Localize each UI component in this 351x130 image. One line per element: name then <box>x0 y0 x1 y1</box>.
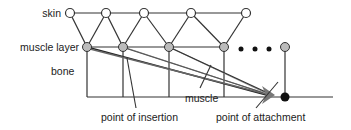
label-skin: skin <box>42 7 61 19</box>
label-point-of-insertion: point of insertion <box>101 111 178 123</box>
ellipsis-dots <box>239 47 272 52</box>
skin-muscle-links <box>70 13 246 47</box>
muscle-bundle <box>87 47 270 96</box>
label-muscle: muscle <box>185 92 218 104</box>
label-muscle-layer: muscle layer <box>20 41 79 53</box>
label-point-of-attachment: point of attachment <box>216 111 305 123</box>
label-bone: bone <box>51 65 75 77</box>
attachment-node <box>281 93 290 102</box>
muscle-diagram: skin muscle layer bone muscle point of i… <box>0 0 351 130</box>
